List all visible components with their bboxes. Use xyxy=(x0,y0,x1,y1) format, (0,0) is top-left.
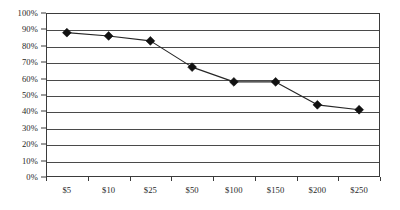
y-axis: 0%10%20%30%40%50%60%70%80%90%100% xyxy=(0,0,46,210)
x-axis: $5$10$25$50$100$150$200$250 xyxy=(46,177,380,210)
x-tick-label: $25 xyxy=(144,186,157,195)
data-series-layer xyxy=(46,13,380,177)
data-point-marker xyxy=(313,100,322,109)
y-tick-label: 20% xyxy=(22,140,38,149)
y-tick-label: 60% xyxy=(22,74,38,83)
series-markers xyxy=(62,28,363,114)
y-tick-label: 40% xyxy=(22,107,38,116)
data-point-marker xyxy=(355,105,364,114)
x-tick-mark xyxy=(46,177,47,181)
x-tick-mark xyxy=(88,177,89,181)
y-tick-label: 100% xyxy=(18,9,38,18)
line-chart: 0%10%20%30%40%50%60%70%80%90%100% $5$10$… xyxy=(0,0,400,210)
data-point-marker xyxy=(62,28,71,37)
data-point-marker xyxy=(146,36,155,45)
x-tick-label: $5 xyxy=(62,186,71,195)
data-point-marker xyxy=(271,77,280,86)
data-point-marker xyxy=(188,63,197,72)
y-tick-label: 50% xyxy=(22,91,38,100)
x-tick-label: $50 xyxy=(186,186,199,195)
y-tick-label: 70% xyxy=(22,58,38,67)
x-tick-label: $100 xyxy=(225,186,243,195)
series-line xyxy=(67,33,359,110)
y-tick-label: 0% xyxy=(26,173,38,182)
x-tick-mark xyxy=(213,177,214,181)
x-tick-mark xyxy=(171,177,172,181)
y-tick-label: 30% xyxy=(22,124,38,133)
x-tick-mark xyxy=(297,177,298,181)
data-point-marker xyxy=(104,32,113,41)
x-tick-label: $150 xyxy=(267,186,285,195)
x-tick-label: $200 xyxy=(309,186,327,195)
x-tick-label: $10 xyxy=(102,186,115,195)
data-point-marker xyxy=(229,77,238,86)
x-tick-mark xyxy=(380,177,381,181)
y-tick-label: 90% xyxy=(22,25,38,34)
x-tick-mark xyxy=(255,177,256,181)
y-tick-label: 80% xyxy=(22,42,38,51)
y-tick-label: 10% xyxy=(22,156,38,165)
x-tick-mark xyxy=(338,177,339,181)
x-tick-label: $250 xyxy=(350,186,368,195)
x-tick-mark xyxy=(130,177,131,181)
